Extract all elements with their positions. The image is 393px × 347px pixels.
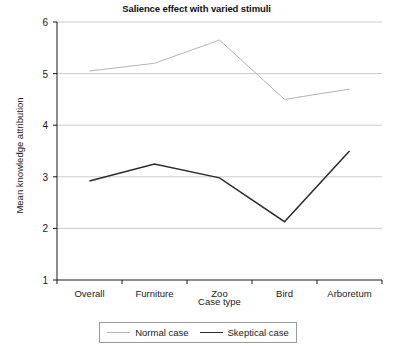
axis-lines <box>57 22 382 280</box>
y-axis-tick-label: 1 <box>26 275 48 286</box>
legend-entry[interactable]: Skeptical case <box>200 327 289 338</box>
y-axis-tick-label: 6 <box>26 17 48 28</box>
series-line <box>90 40 350 99</box>
y-axis-tick-label: 3 <box>26 171 48 182</box>
legend-label: Skeptical case <box>228 327 289 338</box>
chart-figure: Salience effect with varied stimuli 1234… <box>0 0 393 347</box>
series-line <box>90 151 350 222</box>
legend-entry[interactable]: Normal case <box>107 327 188 338</box>
x-axis-ticks <box>57 280 382 284</box>
legend-line-swatch <box>107 332 130 333</box>
legend-line-swatch <box>200 332 223 333</box>
gridlines <box>57 22 382 228</box>
y-axis-tick-label: 2 <box>26 223 48 234</box>
data-series-group <box>90 40 350 222</box>
y-axis-label: Mean knowledge attribution <box>14 76 25 236</box>
y-axis-tick-label: 4 <box>26 120 48 131</box>
legend-label: Normal case <box>135 327 188 338</box>
x-axis-label: Case type <box>57 296 382 307</box>
y-axis-tick-label: 5 <box>26 68 48 79</box>
chart-legend: Normal caseSkeptical case <box>99 322 297 343</box>
y-axis-ticks <box>53 22 57 280</box>
